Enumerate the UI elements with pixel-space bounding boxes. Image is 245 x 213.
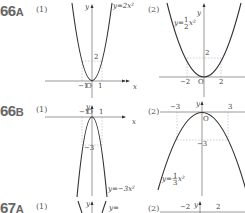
svg-text:2: 2 xyxy=(216,203,220,211)
svg-text:y=−3x²: y=−3x² xyxy=(107,185,135,193)
svg-text:−3: −3 xyxy=(170,103,180,111)
svg-text:y: y xyxy=(196,9,202,17)
svg-text:1: 1 xyxy=(99,108,103,116)
svg-text:y=: y= xyxy=(108,204,119,212)
svg-text:x²: x² xyxy=(189,19,196,27)
svg-text:y: y xyxy=(85,200,91,208)
svg-text:2: 2 xyxy=(184,23,188,31)
graph-67a-2: −2 y 2 xyxy=(160,201,245,213)
svg-text:x²: x² xyxy=(178,175,185,183)
graph-66b-2: y −3 O 3 −3 y=− 1 3 x² xyxy=(158,100,245,196)
graph-66b-1: y −1 O 1 −3 y=−3x² x xyxy=(45,103,136,197)
svg-text:2: 2 xyxy=(94,53,98,61)
svg-text:x: x xyxy=(132,118,136,126)
graph-66a-1: y y=2x² 2 −1 O 1 xyxy=(45,2,134,98)
graph-66a-2: y y= 1 2 x² 2 −2 O 2 xyxy=(126,3,245,97)
svg-text:x: x xyxy=(133,83,137,91)
svg-text:−2: −2 xyxy=(180,78,190,86)
svg-text:O: O xyxy=(203,115,209,123)
svg-text:3: 3 xyxy=(173,179,177,187)
svg-text:O: O xyxy=(198,78,204,86)
graph-67a-1: y y= xyxy=(78,200,119,213)
svg-text:−3: −3 xyxy=(84,144,94,152)
x-axis-arrow-icon xyxy=(122,80,126,83)
graphs: y y=2x² 2 −1 O 1 y y= 1 2 x² 2 −2 O 2 x xyxy=(0,0,245,213)
svg-text:y=2x²: y=2x² xyxy=(112,2,134,10)
svg-text:1: 1 xyxy=(98,82,102,90)
svg-text:−3: −3 xyxy=(197,140,207,148)
svg-text:2: 2 xyxy=(219,78,223,86)
svg-text:y=: y= xyxy=(173,19,184,27)
svg-text:O: O xyxy=(87,108,93,116)
svg-text:−2: −2 xyxy=(180,203,190,211)
svg-text:2: 2 xyxy=(205,49,209,57)
svg-text:y: y xyxy=(195,100,201,108)
svg-text:y: y xyxy=(193,201,199,209)
svg-text:O: O xyxy=(86,82,92,90)
svg-text:y: y xyxy=(84,3,90,11)
svg-text:3: 3 xyxy=(228,103,232,111)
